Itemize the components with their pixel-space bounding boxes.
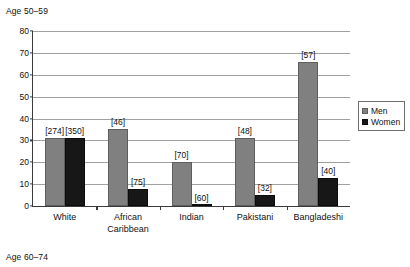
x-axis-tick-mark [287, 206, 288, 210]
y-axis-tick-label: 40 [20, 114, 29, 124]
x-axis-category-label: AfricanCaribbean [107, 212, 149, 235]
bar-men-pakistani [235, 138, 255, 206]
plot-area: 01020304050607080White[274][350]AfricanC… [32, 31, 350, 207]
bar-sample-size-label: [350] [65, 126, 84, 136]
y-axis-tick-label: 10 [20, 179, 29, 189]
y-axis-tick-mark [30, 140, 34, 141]
y-axis-tick-label: 0 [24, 201, 29, 211]
y-axis-tick-mark [30, 52, 34, 53]
category-label-line: African [107, 212, 149, 224]
chart-caption-bottom: Age 60–74 [6, 252, 48, 262]
x-axis-tick-mark [160, 206, 161, 210]
x-axis-category-label: White [53, 212, 76, 224]
y-axis-tick-label: 30 [20, 135, 29, 145]
women-swatch-icon [362, 119, 368, 125]
legend-item-men: Men [362, 105, 400, 116]
y-axis-tick-label: 80 [20, 26, 29, 36]
bar-women-indian [192, 204, 212, 206]
category-label-line: Caribbean [107, 224, 149, 236]
bar-women-white [65, 138, 85, 206]
y-axis-tick-mark [30, 96, 34, 97]
chart-caption-top: Age 50–59 [6, 6, 48, 16]
x-axis-category-label: Bangladeshi [294, 212, 344, 224]
bar-men-bangladeshi [298, 62, 318, 206]
gridline [33, 31, 350, 32]
bar-sample-size-label: [75] [131, 177, 145, 187]
x-axis-category-label: Pakistani [237, 212, 274, 224]
bar-chart-figure: Age 50–59 01020304050607080White[274][35… [0, 0, 410, 267]
bar-sample-size-label: [274] [45, 126, 64, 136]
y-axis-tick-mark [30, 30, 34, 31]
chart-legend: MenWomen [358, 101, 405, 131]
bar-women-pakistani [255, 195, 275, 206]
plot-inner: 01020304050607080White[274][350]AfricanC… [33, 31, 350, 206]
bar-sample-size-label: [70] [174, 150, 188, 160]
bar-sample-size-label: [48] [238, 126, 252, 136]
bar-women-bangladeshi [318, 178, 338, 206]
bar-women-african-caribbean [128, 189, 148, 207]
bar-men-white [45, 138, 65, 206]
bar-men-indian [172, 162, 192, 206]
y-axis-tick-label: 70 [20, 48, 29, 58]
category-label-line: Indian [179, 212, 204, 224]
bar-sample-size-label: [60] [194, 193, 208, 203]
y-axis-tick-label: 50 [20, 92, 29, 102]
x-axis-tick-mark [223, 206, 224, 210]
y-axis-tick-label: 20 [20, 157, 29, 167]
gridline [33, 206, 350, 207]
x-axis-tick-mark [96, 206, 97, 210]
category-label-line: Pakistani [237, 212, 274, 224]
y-axis-tick-mark [30, 74, 34, 75]
category-label-line: Bangladeshi [294, 212, 344, 224]
y-axis-tick-mark [30, 205, 34, 206]
bar-sample-size-label: [40] [321, 166, 335, 176]
y-axis-tick-mark [30, 118, 34, 119]
bar-sample-size-label: [57] [301, 50, 315, 60]
category-label-line: White [53, 212, 76, 224]
bar-men-african-caribbean [108, 129, 128, 206]
men-swatch-icon [362, 108, 368, 114]
bar-sample-size-label: [32] [258, 183, 272, 193]
legend-item-women: Women [362, 116, 400, 127]
legend-item-label: Women [371, 117, 400, 127]
legend-item-label: Men [371, 106, 388, 116]
y-axis-tick-label: 60 [20, 70, 29, 80]
y-axis-tick-mark [30, 162, 34, 163]
bar-sample-size-label: [46] [111, 117, 125, 127]
y-axis-tick-mark [30, 184, 34, 185]
x-axis-category-label: Indian [179, 212, 204, 224]
